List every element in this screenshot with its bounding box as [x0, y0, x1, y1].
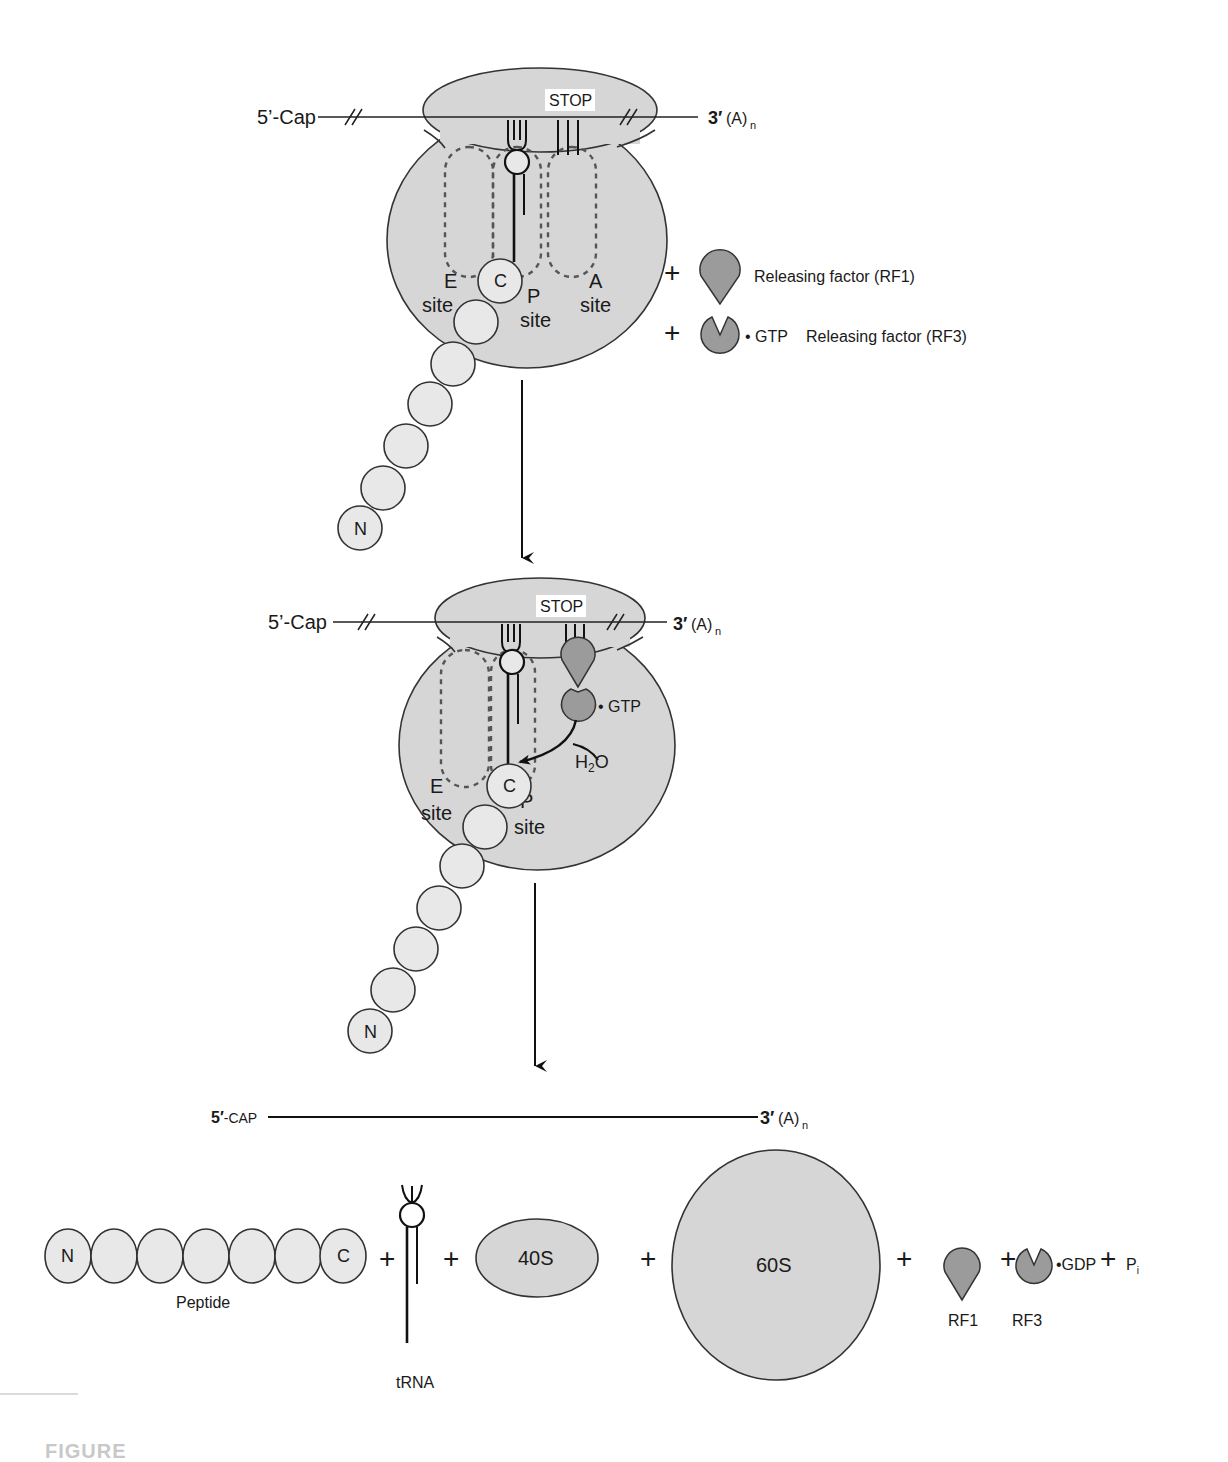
e-site-label: E — [444, 270, 457, 292]
poly-a-tail-label: (A) — [778, 1110, 799, 1127]
40s-label: 40S — [518, 1247, 554, 1269]
stop-codon-label: STOP — [549, 92, 592, 109]
poly-a-tail-label: (A) — [726, 110, 747, 127]
svg-text:+: + — [664, 257, 680, 288]
p-site-label: P — [527, 285, 540, 307]
svg-text:+: + — [1000, 1243, 1016, 1274]
inorganic-phosphate-label: Pi — [1126, 1256, 1139, 1276]
svg-text:+: + — [664, 317, 680, 348]
svg-text:N: N — [364, 1022, 377, 1042]
stop-codon-label: STOP — [540, 598, 583, 615]
trna-label: tRNA — [396, 1374, 435, 1391]
mrna-3-prime-label: 3′ — [760, 1108, 774, 1128]
stage-3-dissociated-products: 5′-CAP 3′ (A) n N C Peptide + tRNA + — [45, 1108, 1139, 1391]
c-terminus-label: C — [337, 1246, 350, 1266]
svg-text:+: + — [640, 1243, 656, 1274]
n-terminus-label: N — [61, 1246, 74, 1266]
peptide-label: Peptide — [176, 1294, 230, 1311]
svg-text:+: + — [379, 1243, 395, 1274]
mrna-5-prime-label: 5’-Cap — [268, 611, 327, 633]
svg-text:site: site — [514, 816, 545, 838]
svg-text:+: + — [443, 1243, 459, 1274]
released-peptide: N C Peptide — [45, 1229, 366, 1311]
svg-text:C: C — [503, 776, 516, 796]
a-site-label: A — [589, 270, 603, 292]
rf3-gtp-label: • GTP — [598, 698, 641, 715]
rf1-icon — [700, 250, 740, 304]
rf3-bound-icon — [562, 689, 596, 721]
rf3-icon — [701, 317, 739, 353]
svg-text:n: n — [802, 1119, 808, 1131]
mrna-3-prime-label: 3′ — [708, 108, 722, 128]
svg-text:site: site — [580, 294, 611, 316]
svg-text:C: C — [494, 271, 507, 291]
svg-text:n: n — [750, 119, 756, 131]
rf1-label: RF1 — [948, 1312, 978, 1329]
svg-text:+: + — [896, 1243, 912, 1274]
stage-2-release-factor-binding: 5’-Cap 3′ (A) n STOP • GTP H2O E site P … — [268, 578, 721, 1053]
svg-text:+: + — [1100, 1243, 1116, 1274]
mrna-5-prime-label: 5′-CAP — [211, 1109, 257, 1126]
e-site-label: E — [430, 775, 443, 797]
free-rf1-icon — [944, 1248, 980, 1300]
stage-1-ribosome-with-stop-codon: 5’-Cap 3′ (A) n STOP E site P site A sit… — [257, 68, 967, 550]
rf3-label: RF3 — [1012, 1312, 1042, 1329]
rf3-legend-label: Releasing factor (RF3) — [806, 328, 967, 345]
gdp-label: •GDP — [1056, 1256, 1096, 1273]
figure-caption-fragment: FIGURE — [45, 1440, 127, 1462]
svg-text:site: site — [520, 309, 551, 331]
rf3-gtp-label: • GTP — [745, 328, 788, 345]
free-trna-icon: tRNA — [396, 1185, 435, 1391]
free-rf3-icon — [1016, 1249, 1052, 1284]
svg-text:site: site — [421, 802, 452, 824]
mrna-3-prime-label: 3′ — [673, 614, 687, 634]
mrna-5-prime-label: 5’-Cap — [257, 106, 316, 128]
rf1-legend-label: Releasing factor (RF1) — [754, 268, 915, 285]
svg-text:n: n — [715, 625, 721, 637]
60s-label: 60S — [756, 1254, 792, 1276]
poly-a-tail-label: (A) — [691, 616, 712, 633]
svg-text:site: site — [422, 294, 453, 316]
svg-text:N: N — [354, 519, 367, 539]
